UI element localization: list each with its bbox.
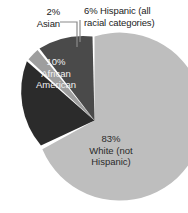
pie-chart-figure: 2% Asian 6% Hispanic (all racial categor…: [0, 0, 188, 213]
slice-label-african-american: 10% African American: [20, 56, 92, 91]
slice-label-asian: 2% Asian: [2, 6, 60, 29]
slice-label-hispanic: 6% Hispanic (all racial categories): [84, 5, 188, 28]
slice-label-white-not-hispanic: 83% White (not Hispanic): [68, 133, 154, 168]
pie-chart-graphic: [0, 0, 188, 213]
